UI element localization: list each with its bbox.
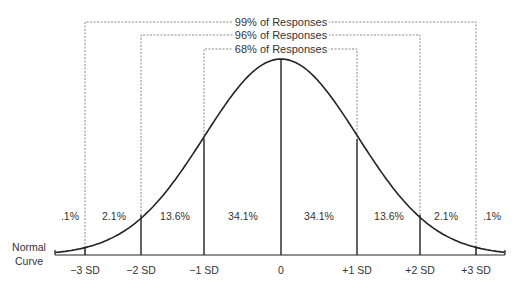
- curve-title-line-1: Normal: [6, 240, 52, 254]
- normal-curve-diagram: 99% of Responses 96% of Responses 68% of…: [0, 0, 524, 289]
- sd-label-plus1: +1 SD: [342, 264, 371, 276]
- sd-label-plus3: +3 SD: [461, 264, 490, 276]
- sd-label-minus2: −2 SD: [126, 264, 155, 276]
- segment-percent: .1%: [61, 210, 79, 222]
- sd-lines: [85, 59, 476, 255]
- segment-percent: 34.1%: [304, 210, 334, 222]
- curve-title: Normal Curve: [6, 240, 52, 268]
- segment-percent: 2.1%: [102, 210, 126, 222]
- range-label-68: 68% of Responses: [233, 43, 329, 55]
- range-label-99: 99% of Responses: [233, 16, 329, 28]
- sd-label-minus3: −3 SD: [70, 264, 99, 276]
- sd-label-mean: 0: [278, 264, 284, 276]
- range-label-96: 96% of Responses: [233, 29, 329, 41]
- segment-percent: 2.1%: [434, 210, 458, 222]
- curve-title-line-2: Curve: [6, 254, 52, 268]
- sd-label-minus1: −1 SD: [189, 264, 218, 276]
- bell-curve: [55, 59, 505, 253]
- segment-percent: 34.1%: [228, 210, 258, 222]
- segment-percent: 13.6%: [160, 210, 190, 222]
- segment-percent: .1%: [483, 210, 501, 222]
- segment-percent: 13.6%: [374, 210, 404, 222]
- sd-label-plus2: +2 SD: [405, 264, 434, 276]
